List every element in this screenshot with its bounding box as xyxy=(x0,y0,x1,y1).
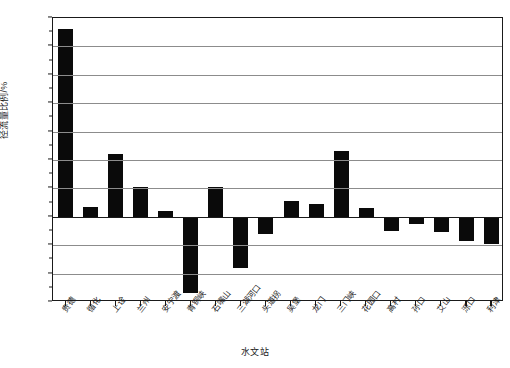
y-tick-mark xyxy=(48,244,52,245)
gridline xyxy=(53,160,502,161)
y-minor-tick-mark xyxy=(49,173,52,174)
y-tick-mark xyxy=(48,158,52,159)
bar xyxy=(284,201,299,217)
bar xyxy=(309,204,324,217)
bar xyxy=(83,207,98,217)
y-tick-mark xyxy=(48,45,52,46)
y-tick-mark xyxy=(48,130,52,131)
y-minor-tick-mark xyxy=(49,88,52,89)
bar xyxy=(384,217,399,231)
gridline xyxy=(53,103,502,104)
gridline xyxy=(53,132,502,133)
y-tick-mark xyxy=(48,272,52,273)
y-tick-mark xyxy=(48,187,52,188)
y-tick-mark xyxy=(48,73,52,74)
gridline xyxy=(53,245,502,246)
bar xyxy=(484,217,499,244)
runoff-ratio-bar-chart: 径流量比例/% 706050403020100-10-20-30 贵德循化上诠兰… xyxy=(0,0,510,368)
y-tick-mark xyxy=(48,102,52,103)
bar xyxy=(183,217,198,294)
bar xyxy=(258,217,273,234)
plot-area xyxy=(52,17,503,301)
bar xyxy=(334,151,349,216)
y-minor-tick-mark xyxy=(49,31,52,32)
y-tick-mark xyxy=(48,16,52,17)
zero-line xyxy=(53,217,502,218)
y-minor-tick-mark xyxy=(49,230,52,231)
y-axis-title: 径流量比例/% xyxy=(0,81,10,139)
bar xyxy=(233,217,248,268)
y-minor-tick-mark xyxy=(49,144,52,145)
y-minor-tick-mark xyxy=(49,116,52,117)
bar xyxy=(359,208,374,217)
gridline xyxy=(53,274,502,275)
bar xyxy=(108,154,123,216)
y-tick-mark xyxy=(48,300,52,301)
y-minor-tick-mark xyxy=(49,286,52,287)
gridline xyxy=(53,188,502,189)
bar xyxy=(133,187,148,217)
y-minor-tick-mark xyxy=(49,258,52,259)
y-minor-tick-mark xyxy=(49,59,52,60)
y-tick-mark xyxy=(48,215,52,216)
bar xyxy=(459,217,474,241)
bar xyxy=(208,187,223,217)
bar xyxy=(434,217,449,233)
bars-layer xyxy=(53,18,502,300)
x-axis-title: 水文站 xyxy=(0,345,510,358)
gridline xyxy=(53,46,502,47)
y-minor-tick-mark xyxy=(49,201,52,202)
gridline xyxy=(53,75,502,76)
